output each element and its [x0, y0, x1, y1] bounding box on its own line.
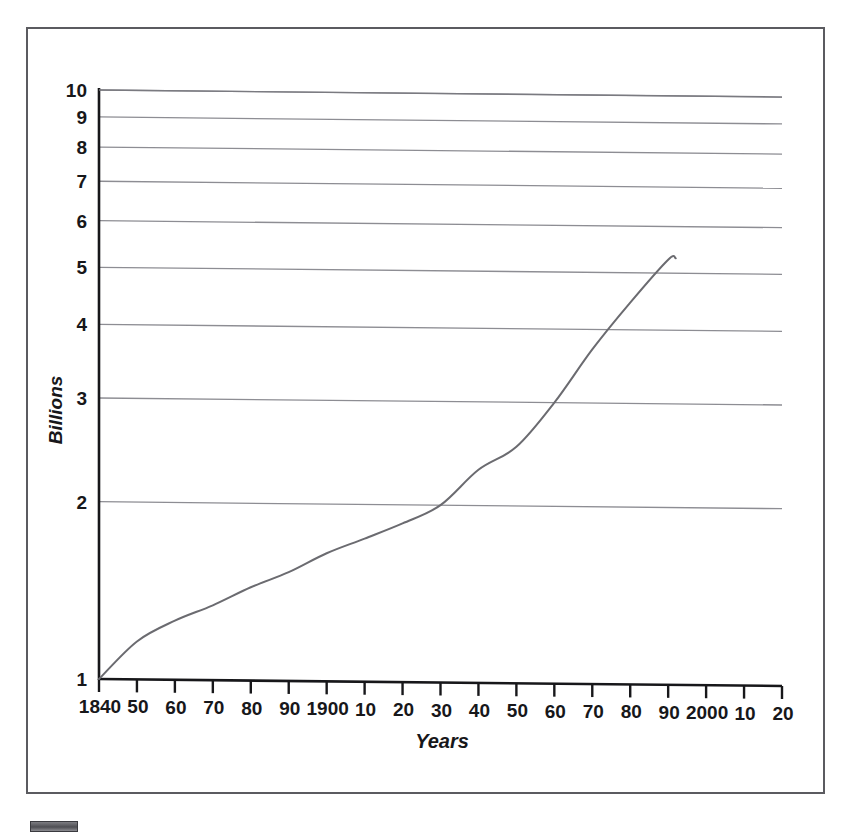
x-axis-title: Years	[415, 730, 469, 752]
x-tick-label-2020: 20	[772, 703, 793, 724]
x-tick-label-1840: 1840	[79, 696, 121, 717]
y-tick-label-3: 3	[76, 388, 87, 409]
x-tick-label-1890: 90	[279, 698, 300, 719]
y-tick-label-4: 4	[76, 314, 87, 335]
gridline-3	[99, 398, 782, 405]
x-tick-label-2000: 2000	[686, 702, 728, 723]
line-chart: 12345678910 1840506070809019001020304050…	[0, 0, 857, 834]
x-tick-label-1990: 90	[659, 702, 680, 723]
x-tick-label-1950: 50	[507, 700, 528, 721]
y-tick-label-7: 7	[76, 171, 87, 192]
x-tick-labels-group: 1840506070809019001020304050607080902000…	[79, 696, 794, 724]
gridlines-group	[99, 90, 782, 509]
data-series-group	[99, 256, 676, 679]
y-tick-label-6: 6	[76, 211, 87, 232]
gridline-9	[99, 117, 782, 124]
gridline-6	[99, 221, 782, 228]
y-axis-title: Billions	[45, 376, 66, 445]
y-tick-label-10: 10	[66, 80, 87, 101]
y-tick-label-1: 1	[76, 669, 87, 690]
x-tick-label-1960: 60	[545, 701, 566, 722]
x-tick-label-1970: 70	[583, 701, 604, 722]
x-tick-label-1860: 60	[165, 697, 186, 718]
x-tick-label-1980: 80	[621, 701, 642, 722]
gridline-5	[99, 267, 782, 274]
gridline-4	[99, 324, 782, 331]
x-tick-label-1850: 50	[127, 696, 148, 717]
gridline-top	[99, 90, 782, 97]
x-tick-label-1920: 20	[393, 699, 414, 720]
x-tick-label-1900: 1900	[307, 698, 349, 719]
axis-lines-group	[99, 88, 782, 686]
series-line-0	[99, 256, 676, 679]
y-tick-label-5: 5	[76, 257, 87, 278]
x-tick-label-1870: 70	[203, 697, 224, 718]
gridline-8	[99, 147, 782, 154]
plot-container: 12345678910 1840506070809019001020304050…	[0, 0, 857, 834]
y-tick-label-9: 9	[76, 107, 87, 128]
x-tick-label-2010: 10	[734, 703, 755, 724]
x-tick-label-1930: 30	[431, 700, 452, 721]
scan-artifact-block	[30, 821, 78, 832]
y-tick-label-2: 2	[76, 492, 87, 513]
x-tick-label-1910: 10	[355, 699, 376, 720]
y-tick-labels-group: 12345678910	[66, 80, 88, 690]
x-tick-label-1940: 40	[469, 700, 490, 721]
y-tick-label-8: 8	[76, 137, 87, 158]
gridline-7	[99, 181, 782, 188]
figure-canvas: 12345678910 1840506070809019001020304050…	[0, 0, 857, 834]
x-tick-label-1880: 80	[241, 698, 262, 719]
